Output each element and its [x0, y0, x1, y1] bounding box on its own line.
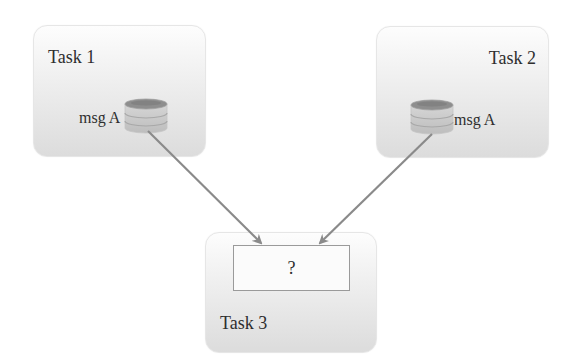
task-1-title: Task 1	[48, 47, 95, 67]
task-1-message-label: msg A	[79, 109, 120, 127]
database-stack-icon	[123, 96, 169, 136]
task-2-message-label: msg A	[454, 111, 495, 129]
task-3-inbox-label: ?	[288, 258, 296, 279]
task-1-box: Task 1 msg A	[33, 25, 206, 157]
task-3-box: ? Task 3	[205, 232, 377, 353]
task-3-title: Task 3	[220, 313, 267, 333]
database-stack-icon	[409, 97, 455, 137]
task-2-box: Task 2 msg A	[376, 26, 549, 158]
task-3-inbox: ?	[233, 245, 350, 291]
task-2-title: Task 2	[489, 48, 536, 68]
